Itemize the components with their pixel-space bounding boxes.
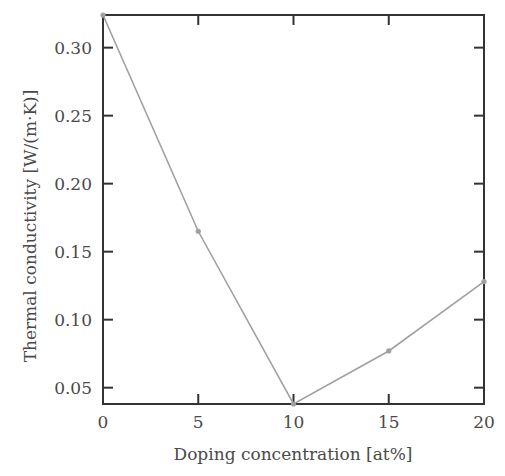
x-tick-labels: 05101520 [98,412,495,432]
line-chart: 05101520 0.050.100.150.200.250.30 Doping… [0,0,505,476]
y-tick-label: 0.20 [54,174,92,194]
y-axis-label: Thermal conductivity [W/(m·K)] [20,90,40,363]
y-tick-labels: 0.050.100.150.200.250.30 [54,38,92,398]
x-axis-label: Doping concentration [at%] [174,444,413,464]
data-point-marker [100,12,105,17]
axis-ticks [103,15,484,404]
x-tick-label: 5 [193,412,204,432]
y-tick-label: 0.25 [54,106,92,126]
x-tick-label: 0 [98,412,109,432]
data-point-marker [481,279,486,284]
series-line [103,15,484,404]
y-tick-label: 0.15 [54,242,92,262]
x-tick-label: 15 [378,412,400,432]
y-tick-label: 0.30 [54,38,92,58]
x-tick-label: 20 [473,412,495,432]
plot-frame [103,15,484,404]
y-tick-label: 0.10 [54,310,92,330]
y-tick-label: 0.05 [54,378,92,398]
data-point-marker [386,348,391,353]
data-series [100,12,486,406]
data-point-marker [291,401,296,406]
plot-border [103,15,484,404]
x-tick-label: 10 [283,412,305,432]
data-point-marker [196,229,201,234]
